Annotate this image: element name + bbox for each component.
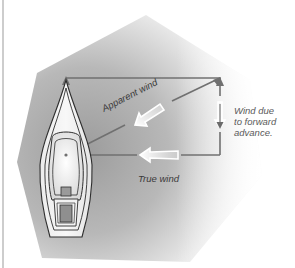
forward-advance-label-line-2: to forward <box>234 116 276 127</box>
diagram-canvas: Apparent wind Wind due to forward advanc… <box>0 0 295 268</box>
forward-advance-label-line-1: Wind due <box>234 105 276 116</box>
true-wind-label: True wind <box>138 173 179 184</box>
cockpit-well <box>60 205 72 222</box>
mast-foot <box>64 153 67 156</box>
forward-advance-label-line-3: advance. <box>234 127 276 138</box>
forward-advance-label: Wind due to forward advance. <box>234 105 276 138</box>
companionway-hatch <box>61 187 71 196</box>
